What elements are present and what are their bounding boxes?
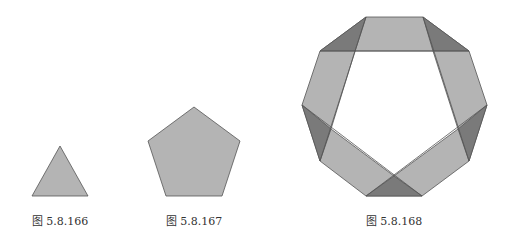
figures-canvas: [0, 0, 508, 240]
decagon-strip-figure: [302, 17, 487, 196]
triangle-figure: [32, 146, 88, 196]
pentagon-figure: [148, 107, 240, 196]
caption-fig-168: 图 5.8.168: [366, 212, 422, 228]
caption-fig-166: 图 5.8.166: [32, 212, 88, 228]
caption-fig-167: 图 5.8.167: [166, 212, 222, 228]
